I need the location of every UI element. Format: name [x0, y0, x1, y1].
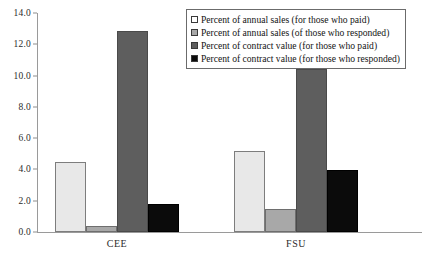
legend-swatch-icon	[191, 42, 198, 49]
legend-label: Percent of annual sales (of those who re…	[201, 27, 389, 38]
legend-label: Percent of contract value (for those who…	[201, 40, 377, 51]
x-axis-category-label: FSU	[286, 238, 306, 249]
legend-swatch-icon	[191, 29, 198, 36]
bar	[148, 204, 179, 232]
y-axis-tick-label: 2.0	[19, 196, 31, 206]
legend-swatch-icon	[191, 55, 198, 62]
legend-item: Percent of contract value (for those who…	[191, 52, 400, 65]
bar	[296, 69, 327, 232]
legend-label: Percent of annual sales (for those who p…	[201, 14, 370, 25]
y-axis-tick-label: 6.0	[19, 133, 31, 143]
bar	[117, 31, 148, 232]
bar	[234, 151, 265, 232]
x-axis-line	[37, 232, 422, 233]
legend-item: Percent of annual sales (of those who re…	[191, 26, 400, 39]
x-axis-category-label: CEE	[107, 238, 127, 249]
y-axis-tick-label: 12.0	[14, 39, 31, 49]
bar	[265, 209, 296, 232]
bar-group-cee	[55, 13, 179, 232]
bar	[327, 170, 358, 232]
legend-item: Percent of annual sales (for those who p…	[191, 13, 400, 26]
chart-legend: Percent of annual sales (for those who p…	[186, 9, 406, 69]
y-axis-tick-label: 8.0	[19, 102, 31, 112]
bar	[55, 162, 86, 232]
y-axis: 14.012.010.08.06.04.02.00.0	[0, 0, 36, 260]
legend-item: Percent of contract value (for those who…	[191, 39, 400, 52]
y-axis-tick-label: 14.0	[14, 8, 31, 18]
bar-chart: 14.012.010.08.06.04.02.00.0 Percent of a…	[0, 0, 425, 260]
y-axis-tick-label: 10.0	[14, 71, 31, 81]
y-axis-tick-label: 0.0	[19, 227, 31, 237]
y-axis-tick-label: 4.0	[19, 164, 31, 174]
bar	[86, 226, 117, 232]
legend-swatch-icon	[191, 16, 198, 23]
legend-label: Percent of contract value (for those who…	[201, 53, 400, 64]
